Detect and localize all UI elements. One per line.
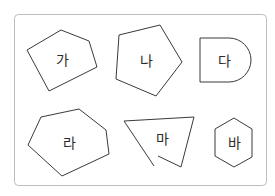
- shape-ga: 가: [27, 30, 97, 91]
- shape-ra: 라: [28, 109, 109, 176]
- label-ma: 마: [156, 131, 169, 147]
- figure-frame: [15, 15, 267, 186]
- shape-ma: 마: [124, 117, 194, 167]
- shape-da: 다: [200, 38, 251, 82]
- shapes-figure: 가 나 다 라 마 바: [0, 0, 275, 196]
- label-da: 다: [218, 53, 231, 69]
- label-ra: 라: [63, 135, 76, 151]
- label-ga: 가: [56, 52, 69, 68]
- shape-ba: 바: [215, 118, 252, 167]
- label-ba: 바: [228, 135, 241, 151]
- shape-na: 나: [116, 25, 182, 96]
- label-na: 나: [140, 53, 153, 69]
